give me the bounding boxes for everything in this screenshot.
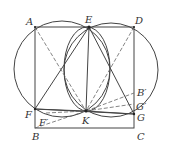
dashed-dk — [86, 27, 134, 111]
label-b: B — [31, 131, 39, 142]
point-d — [133, 26, 135, 28]
label-gprime: G′ — [136, 101, 147, 112]
segment-ef — [35, 27, 89, 109]
left-circle — [14, 21, 110, 117]
point-f — [34, 108, 36, 110]
label-d: D — [134, 15, 143, 26]
dashed-ak — [35, 27, 86, 111]
label-k: K — [81, 115, 90, 126]
label-bprime: B′ — [136, 87, 147, 98]
point-g — [133, 113, 135, 115]
segment-ek — [86, 27, 89, 111]
label-a: A — [25, 16, 33, 27]
label-fprime: F′ — [38, 117, 49, 128]
point-a — [34, 26, 36, 28]
dashed-kbprime — [86, 93, 134, 111]
point-e — [87, 25, 90, 28]
label-e: E — [84, 14, 93, 25]
segment-eg — [89, 27, 134, 114]
label-c: C — [137, 131, 145, 142]
label-g: G — [137, 112, 145, 123]
geometry-diagram: A E D F F′ K G G′ B′ B C — [0, 0, 174, 153]
point-k — [84, 109, 87, 112]
label-f: F — [24, 109, 33, 120]
